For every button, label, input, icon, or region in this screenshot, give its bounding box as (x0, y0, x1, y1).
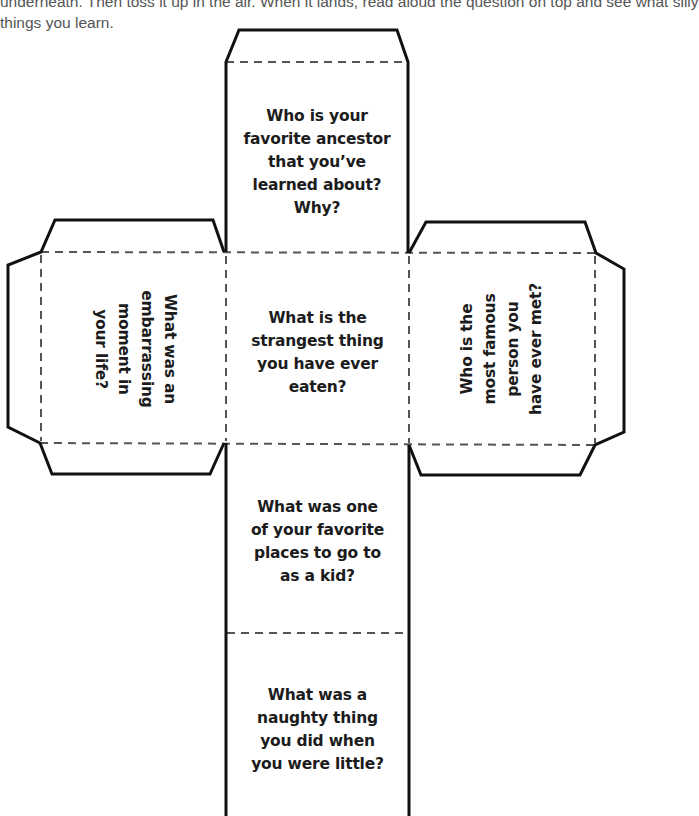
question-line: have ever met? (525, 259, 548, 439)
question-line: your life? (89, 259, 112, 439)
question-line: eaten? (226, 376, 409, 399)
question-line: learned about? (226, 174, 408, 197)
question-line: strangest thing (226, 330, 409, 353)
face-bottom-question: What was a naughty thing you did when yo… (226, 684, 409, 776)
question-line: Why? (226, 197, 408, 220)
question-line: favorite ancestor (226, 128, 408, 151)
question-line: person you (502, 259, 525, 439)
question-line: you have ever (226, 353, 409, 376)
question-line: naughty thing (226, 707, 409, 730)
question-line: places to go to (226, 542, 409, 565)
question-line: of your favorite (226, 519, 409, 542)
question-line: you were little? (226, 753, 409, 776)
face-top-question: Who is your favorite ancestor that you’v… (226, 105, 408, 220)
face-lower-question: What was one of your favorite places to … (226, 496, 409, 588)
question-line: What was a (226, 684, 409, 707)
question-line: Who is your (226, 105, 408, 128)
question-line: What was an (158, 259, 181, 439)
face-left-question: What was an embarrassing moment in your … (87, 259, 181, 439)
question-line: as a kid? (226, 565, 409, 588)
question-line: What is the (226, 307, 409, 330)
question-line: that you’ve (226, 151, 408, 174)
question-line: you did when (226, 730, 409, 753)
question-line: most famous (479, 259, 502, 439)
question-line: moment in (112, 259, 135, 439)
question-line: Who is the (456, 259, 479, 439)
question-line: What was one (226, 496, 409, 519)
question-line: embarrassing (135, 259, 158, 439)
face-center-question: What is the strangest thing you have eve… (226, 307, 409, 399)
face-right-question: Who is the most famous person you have e… (456, 259, 550, 439)
